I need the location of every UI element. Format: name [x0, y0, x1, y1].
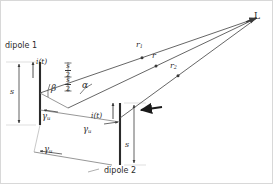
angle-beta-arc: [48, 84, 50, 97]
half-spacing-lower-denominator: 2: [66, 85, 70, 93]
ray-r1-tick: [141, 56, 144, 59]
dipole-1-label: dipole 1: [5, 42, 37, 50]
baseline-construction: [34, 18, 256, 172]
ray-r2-subscript: 2: [174, 64, 177, 70]
observation-point-label: L: [254, 12, 260, 21]
angle-alpha-label: α: [82, 81, 88, 90]
figure-border: [1, 1, 273, 184]
half-spacing-upper-numerator: s: [66, 62, 70, 70]
dipole-2-group: [113, 103, 146, 165]
dipole-2-label-leader: [88, 169, 99, 172]
dipole-2-label: dipole 2: [104, 167, 136, 175]
ray-r2-direction-arrow: [141, 107, 162, 110]
gamma-subscript-3: u: [49, 148, 52, 154]
ray-r-symbol: r: [152, 51, 156, 60]
gamma-u-arrow-2: [104, 122, 118, 124]
ray-r1-label: r1: [136, 41, 143, 49]
ray-r1-subscript: 1: [140, 43, 143, 49]
mid-baseline: [40, 110, 120, 122]
gamma-subscript-2: u: [88, 128, 91, 134]
ray-r2-tick: [177, 74, 180, 77]
ray-r2-line: [120, 18, 257, 118]
dipole-1-current-label: i(t): [36, 58, 47, 66]
angle-beta-label: β: [51, 84, 56, 93]
half-spacing-lower-numerator: s: [66, 76, 70, 84]
angle-gamma-u-label-2: γu: [83, 125, 92, 134]
ray-r-label: r: [152, 52, 156, 60]
antenna-array-geometry-figure: dipole 1 i(t) s dipole 2 i(t) s L r1 r r…: [0, 0, 273, 184]
dipole-1-foot-connector: [34, 125, 40, 152]
r-origin-connector: [40, 93, 68, 108]
dipole-1-length-label: s: [10, 88, 14, 96]
angle-gamma-u-label-1: γu: [42, 112, 51, 121]
half-spacing-lower: s 2: [63, 77, 73, 93]
ray-r-tick: [155, 65, 158, 68]
dipole-2-length-label: s: [125, 141, 129, 149]
diagram-canvas: [0, 0, 273, 184]
angle-gamma-u-label-3: γu: [44, 145, 53, 154]
gamma-subscript-1: u: [47, 115, 50, 121]
ray-r-line: [68, 18, 257, 108]
dipole-2-current-label: i(t): [91, 112, 102, 120]
ray-r2-label: r2: [170, 62, 177, 70]
